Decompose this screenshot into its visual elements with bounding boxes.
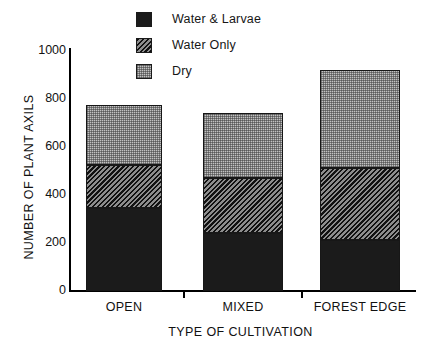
bar-segment-mixed-water-only: [203, 178, 283, 233]
x-axis-title-text: TYPE OF CULTIVATION: [113, 325, 312, 339]
bar-group-mixed: [203, 48, 283, 290]
stacked-bar-chart-figure: Water & Larvae Water Only Dry 1000 800 6…: [0, 0, 426, 349]
x-axis-title: TYPE OF CULTIVATION: [0, 325, 426, 339]
bar-group-forest-edge: [320, 48, 400, 290]
bar-group-open: [86, 48, 162, 290]
bar-segment-forest-edge-dry: [320, 70, 400, 168]
x-category-label-forest-edge: FOREST EDGE: [314, 300, 407, 314]
bar-segment-mixed-dry: [203, 113, 283, 178]
bar-segment-forest-edge-water-and-larvae: [320, 240, 400, 291]
y-axis-line: [69, 48, 71, 292]
x-category-label-open: OPEN: [106, 300, 143, 314]
y-axis-title: NUMBER OF PLANT AXILS: [22, 52, 36, 302]
x-tick-mark-2: [301, 292, 303, 298]
bar-segment-open-water-only: [86, 165, 162, 208]
bar-segment-open-dry: [86, 105, 162, 165]
bar-segment-forest-edge-water-only: [320, 168, 400, 240]
bar-segment-open-water-and-larvae: [86, 208, 162, 291]
plot-area: 1000 800 600 400 200 0: [0, 0, 426, 349]
x-tick-mark-1: [183, 292, 185, 298]
bar-segment-mixed-water-and-larvae: [203, 233, 283, 291]
x-category-label-mixed: MIXED: [222, 300, 263, 314]
